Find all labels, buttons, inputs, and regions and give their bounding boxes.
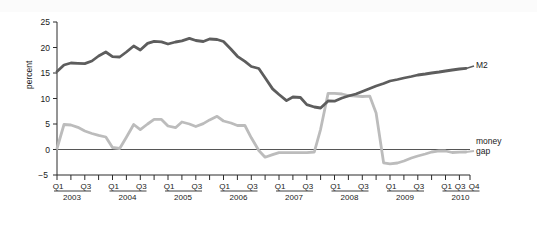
x-year-label-2004: 2004	[106, 193, 150, 202]
x-quarter-label: Q3	[300, 182, 316, 191]
y-tick-label-15: 15	[32, 69, 50, 77]
x-tick-marks	[57, 175, 470, 180]
x-quarter-label: Q1	[383, 182, 399, 191]
y-tick-label-10: 10	[32, 95, 50, 103]
y-tick-label-minus5: −5	[30, 171, 48, 179]
y-tick-label-5: 5	[32, 120, 50, 128]
axis-lines	[57, 22, 470, 175]
x-year-label-2007: 2007	[272, 193, 316, 202]
x-quarter-label: Q3	[78, 182, 94, 191]
x-quarter-label: Q3	[411, 182, 427, 191]
figure-container: 25 20 15 10 5 0 −5 percent Q1 Q3 Q1 Q3 Q…	[0, 0, 537, 229]
y-tick-label-25: 25	[32, 18, 50, 26]
x-year-label-2005: 2005	[161, 193, 205, 202]
m2-leader-line	[466, 66, 474, 68]
x-year-label-2003: 2003	[50, 193, 94, 202]
x-year-label-2010: 2010	[439, 193, 483, 202]
x-year-label-2006: 2006	[217, 193, 261, 202]
line-chart-svg	[8, 12, 529, 204]
x-quarter-label: Q1	[272, 182, 288, 191]
x-quarter-label: Q1	[217, 182, 233, 191]
money-gap-leader-line	[466, 151, 474, 152]
x-quarter-label: Q3	[189, 182, 205, 191]
x-year-label-2009: 2009	[383, 193, 427, 202]
series-label-m2: M2	[476, 60, 488, 70]
x-quarter-label: Q4	[466, 182, 482, 191]
figure-title-strip	[0, 0, 537, 12]
y-tick-marks	[53, 22, 57, 175]
x-quarter-label: Q3	[244, 182, 260, 191]
x-quarter-label: Q1	[328, 182, 344, 191]
series-label-gap: gap	[476, 146, 490, 156]
x-year-label-2008: 2008	[328, 193, 372, 202]
x-quarter-label: Q1	[106, 182, 122, 191]
y-axis-title: percent	[24, 61, 34, 89]
x-quarter-label: Q1	[50, 182, 66, 191]
y-tick-label-20: 20	[32, 44, 50, 52]
x-quarter-label: Q3	[355, 182, 371, 191]
figure-caption-strip	[6, 212, 406, 224]
x-quarter-label: Q1	[161, 182, 177, 191]
y-tick-label-0: 0	[32, 146, 50, 154]
series-label-money: money	[476, 136, 502, 146]
chart-panel: 25 20 15 10 5 0 −5 percent Q1 Q3 Q1 Q3 Q…	[8, 12, 529, 204]
x-quarter-label: Q3	[133, 182, 149, 191]
series-money-gap	[57, 93, 466, 163]
series-m2	[57, 38, 466, 108]
